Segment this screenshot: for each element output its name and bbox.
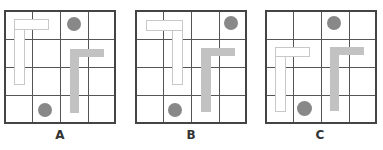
dot-bottom (297, 101, 312, 116)
grid-line (137, 67, 245, 68)
dot-top (327, 16, 341, 30)
filled-shape-vertical (201, 48, 211, 112)
grid-line (137, 95, 245, 96)
panel-c: C (0, 0, 125, 150)
filled-shape-horizontal (330, 47, 364, 55)
outline-shape-joint (276, 48, 285, 56)
outline-shape-joint (173, 21, 182, 30)
panel-label-c: C (310, 128, 330, 142)
grid-line (137, 39, 245, 40)
filled-shape-horizontal (201, 48, 235, 56)
dot-top (224, 16, 238, 30)
panel-label-b: B (181, 128, 201, 142)
dot-bottom (168, 103, 182, 117)
filled-shape-vertical (330, 47, 339, 111)
grid-line (267, 39, 375, 40)
